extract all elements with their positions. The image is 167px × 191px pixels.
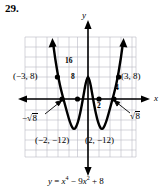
point-label-2-neg12: (2, −12) [85,136,114,145]
equation-op2: + [92,176,97,186]
annotation-sqrt8: √8 [130,111,140,121]
y-tick-label-16: 16 [65,57,73,65]
radicand-8: 8 [32,113,38,123]
graph-plot [0,0,167,191]
radical-sign: √8 [27,113,37,123]
equation-caption: y = x4 − 9x2 + 8 [48,176,104,186]
x-tick-label-4: 4 [115,84,119,92]
annotation-neg-sqrt8: −√8 [22,113,38,123]
equation-term2-exponent: 2 [87,175,90,181]
x-tick-label-2: 2 [97,102,101,110]
point-marker-neg3-8 [55,74,60,79]
y-axis-label: y [82,11,86,20]
point-label-3-8: (3, 8) [121,72,141,81]
equation-lhs: y [48,176,52,186]
radicand-8-positive: 8 [135,111,141,121]
y-tick-label-8: 8 [71,73,75,81]
equation-equals: = [54,176,59,186]
y-axis [84,20,91,176]
figure-container: 29. [0,0,167,191]
point-label-neg2-neg12: (−2, −12) [35,136,69,145]
point-label-neg3-8: (−3, 8) [13,72,38,81]
radical-sign-positive: √8 [130,111,140,121]
equation-term1-exponent: 4 [66,175,69,181]
equation-term3: 8 [99,176,104,186]
point-marker-neg1 [75,96,80,101]
equation-op1: − [71,176,76,186]
x-axis-label: x [154,94,158,103]
